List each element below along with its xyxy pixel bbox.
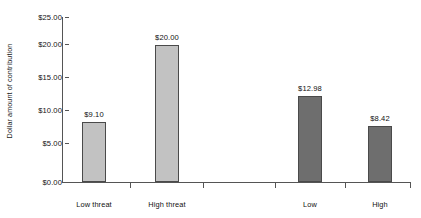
y-axis-tick-label: $25.00 bbox=[38, 13, 65, 22]
bar-high-opportunity[interactable] bbox=[368, 126, 392, 182]
y-axis-tick-label: $15.00 bbox=[38, 73, 65, 82]
x-axis-label-high-opportunity: High opportunity bbox=[350, 191, 410, 218]
bar-value-label: $8.42 bbox=[360, 114, 400, 123]
x-axis-tick-mark bbox=[130, 183, 131, 188]
x-axis-label-high-threat: High threat bbox=[137, 191, 197, 209]
bar-value-label: $20.00 bbox=[147, 33, 187, 42]
bar-low-opportunity[interactable] bbox=[298, 96, 322, 182]
y-axis-tick-25: $25.00 bbox=[0, 12, 69, 22]
tick-mark-icon bbox=[65, 182, 69, 183]
tick-mark-icon bbox=[65, 77, 69, 78]
y-axis-tick-0: $0.00 bbox=[0, 177, 69, 187]
x-axis-label-line: Low threat bbox=[76, 200, 112, 209]
tick-mark-icon bbox=[65, 44, 69, 45]
y-axis-title: Dollar amount of contribution bbox=[2, 0, 16, 182]
y-axis-tick-label: $0.00 bbox=[42, 178, 65, 187]
tick-mark-icon bbox=[65, 143, 69, 144]
tick-mark-icon bbox=[65, 110, 69, 111]
x-axis-line bbox=[62, 182, 411, 183]
x-axis-label-low-opportunity: Low opportunity bbox=[280, 191, 340, 218]
y-axis-tick-label: $5.00 bbox=[42, 139, 65, 148]
y-axis-tick-15: $15.00 bbox=[0, 72, 69, 82]
bar-low-threat[interactable] bbox=[82, 122, 106, 182]
x-axis-tick-mark bbox=[345, 183, 346, 188]
y-axis-tick-20: $20.00 bbox=[0, 39, 69, 49]
x-axis-tick-mark bbox=[410, 183, 411, 188]
bar-value-label: $9.10 bbox=[74, 110, 114, 119]
y-axis-tick-10: $10.00 bbox=[0, 105, 69, 115]
x-axis-label-line: High threat bbox=[148, 200, 185, 209]
x-axis-tick-mark bbox=[275, 183, 276, 188]
x-axis-label-line: High bbox=[372, 200, 388, 209]
tick-mark-icon bbox=[65, 17, 69, 18]
x-axis-tick-mark bbox=[203, 183, 204, 188]
bar-chart: Dollar amount of contribution $25.00 $20… bbox=[0, 0, 421, 218]
bar-value-label: $12.98 bbox=[289, 84, 331, 93]
bar-high-threat[interactable] bbox=[155, 45, 179, 182]
x-axis-label-line: Low bbox=[303, 200, 317, 209]
x-axis-label-low-threat: Low threat bbox=[64, 191, 124, 209]
y-axis-tick-5: $5.00 bbox=[0, 138, 69, 148]
y-axis-tick-label: $10.00 bbox=[38, 106, 65, 115]
y-axis-tick-label: $20.00 bbox=[38, 40, 65, 49]
